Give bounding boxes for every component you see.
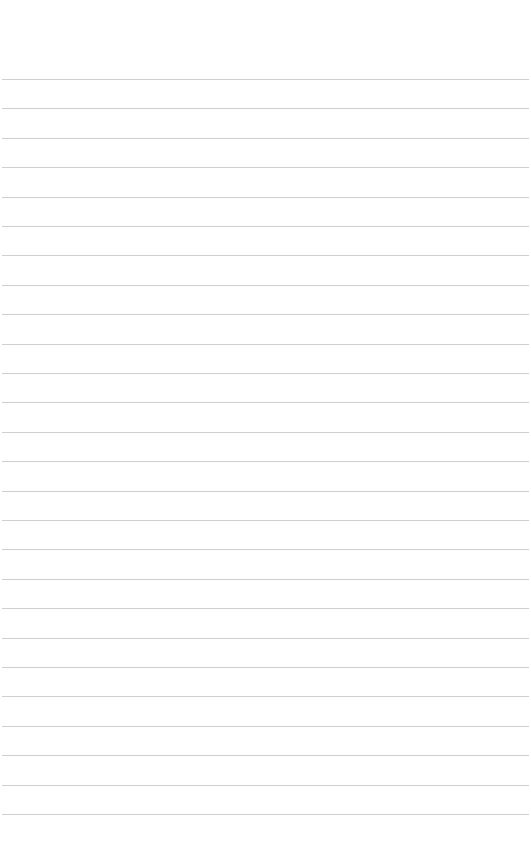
ruled-line <box>2 344 529 345</box>
ruled-line <box>2 432 529 433</box>
ruled-line <box>2 461 529 462</box>
ruled-line <box>2 138 529 139</box>
ruled-line <box>2 726 529 727</box>
ruled-line <box>2 814 529 815</box>
ruled-line <box>2 108 529 109</box>
ruled-line <box>2 755 529 756</box>
ruled-line <box>2 667 529 668</box>
ruled-line <box>2 579 529 580</box>
ruled-line <box>2 373 529 374</box>
ruled-line <box>2 79 529 80</box>
ruled-line <box>2 491 529 492</box>
ruled-line <box>2 226 529 227</box>
ruled-line <box>2 608 529 609</box>
ruled-line <box>2 520 529 521</box>
ruled-line <box>2 285 529 286</box>
lined-paper-page <box>0 0 531 864</box>
ruled-line <box>2 696 529 697</box>
ruled-line <box>2 255 529 256</box>
ruled-line <box>2 402 529 403</box>
ruled-line <box>2 167 529 168</box>
ruled-line <box>2 785 529 786</box>
ruled-line <box>2 314 529 315</box>
ruled-line <box>2 197 529 198</box>
ruled-line <box>2 549 529 550</box>
ruled-line <box>2 638 529 639</box>
